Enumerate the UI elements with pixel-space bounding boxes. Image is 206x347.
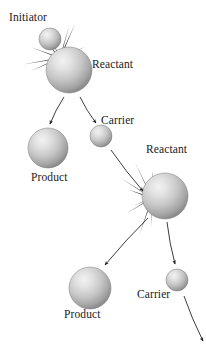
sphere-body xyxy=(90,125,112,147)
arrow-carrier-to-reactant-lower xyxy=(111,150,143,191)
label-product-lower: Product xyxy=(64,309,100,321)
label-initiator: Initiator xyxy=(9,12,47,24)
label-reactant-top: Reactant xyxy=(92,59,133,71)
sphere-body xyxy=(28,128,68,168)
reactant-lower-sphere xyxy=(142,173,188,219)
arrow-reactant-to-carrier xyxy=(80,97,96,123)
product-lower-sphere xyxy=(69,267,111,309)
arrow-layer xyxy=(50,97,203,341)
carrier-middle-sphere xyxy=(90,125,112,147)
reactant-top-sphere xyxy=(46,47,92,93)
sphere-body xyxy=(142,173,188,219)
sphere-body xyxy=(39,28,61,50)
sphere-body xyxy=(69,267,111,309)
label-carrier-lower: Carrier xyxy=(137,289,170,301)
chain-reaction-diagram: Initiator Reactant Carrier Product React… xyxy=(0,0,206,347)
arrow-reactant-to-product-lower xyxy=(105,218,148,265)
arrow-reactant-to-carrier-lower xyxy=(167,222,175,264)
arrow-reactant-to-product-upper xyxy=(50,97,64,124)
initiator-sphere xyxy=(39,28,61,50)
sphere-body xyxy=(46,47,92,93)
label-carrier-middle: Carrier xyxy=(101,115,134,127)
label-product-upper: Product xyxy=(31,172,67,184)
label-reactant-lower: Reactant xyxy=(146,144,187,156)
product-upper-sphere xyxy=(28,128,68,168)
arrow-carrier-to-offscreen xyxy=(184,296,203,341)
